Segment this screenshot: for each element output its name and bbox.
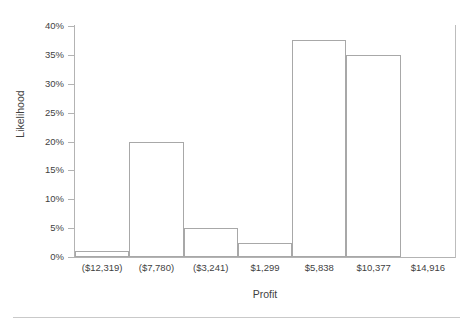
y-axis-tick-label: 0% — [24, 252, 64, 262]
bar — [238, 243, 292, 257]
y-axis-title: Likelihood — [14, 74, 26, 154]
bar — [129, 142, 183, 258]
bar — [184, 228, 238, 257]
plot-area — [75, 26, 455, 257]
y-axis-tick-label: 30% — [24, 79, 64, 89]
y-axis-tick-label: 25% — [24, 108, 64, 118]
y-axis-tick-label: 35% — [24, 50, 64, 60]
x-axis-line — [74, 257, 456, 258]
bar — [75, 251, 129, 257]
x-axis-tick-label: ($7,780) — [129, 262, 183, 274]
chart-figure: 0%5%10%15%20%25%30%35%40% ($12,319)($7,7… — [0, 0, 474, 329]
bar — [292, 40, 346, 257]
y-axis-tick-label: 40% — [24, 21, 64, 31]
bar — [346, 55, 400, 257]
x-axis-tick-label: ($12,319) — [75, 262, 129, 274]
x-axis-tick-label: $14,916 — [401, 262, 455, 274]
y-axis-tick-label: 15% — [24, 165, 64, 175]
y-axis-tick-label: 5% — [24, 223, 64, 233]
x-axis-tick-label: $1,299 — [238, 262, 292, 274]
x-axis-tick-label: $5,838 — [292, 262, 346, 274]
footer-separator — [13, 317, 460, 318]
y-axis-tick-label: 20% — [24, 137, 64, 147]
y-axis-tick-label: 10% — [24, 194, 64, 204]
x-axis-tick-label: ($3,241) — [184, 262, 238, 274]
x-axis-title: Profit — [75, 288, 455, 300]
x-axis-tick-label: $10,377 — [346, 262, 400, 274]
plot-right-border — [455, 25, 456, 258]
